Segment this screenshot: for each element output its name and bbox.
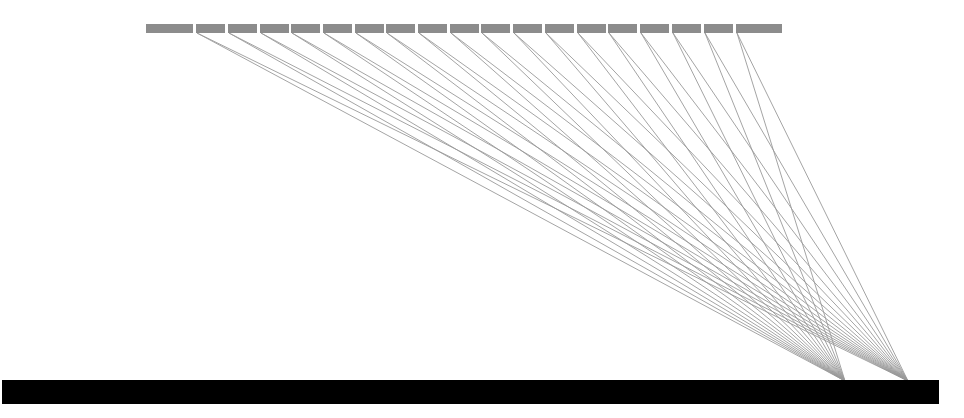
top-node [355, 24, 384, 33]
edge-line [641, 33, 845, 381]
top-node [418, 24, 447, 33]
top-node [450, 24, 479, 33]
edge-line [609, 33, 845, 381]
edge-line [451, 33, 845, 381]
top-node [260, 24, 289, 33]
top-node [736, 24, 782, 33]
top-node [545, 24, 574, 33]
edge-diagram [0, 0, 964, 418]
top-node [481, 24, 510, 33]
edge-line [292, 33, 845, 381]
top-node [291, 24, 320, 33]
top-node-row [146, 24, 782, 33]
base-bar [2, 380, 939, 404]
edge-line [673, 33, 845, 381]
top-node [146, 24, 193, 33]
top-node [228, 24, 257, 33]
top-node [704, 24, 733, 33]
top-node [386, 24, 415, 33]
edge-line [197, 33, 845, 381]
top-node [672, 24, 701, 33]
edge-line [324, 33, 845, 381]
top-node [640, 24, 669, 33]
edge-line [261, 33, 845, 381]
edge-line [514, 33, 845, 381]
top-node [577, 24, 606, 33]
edge-line [578, 33, 845, 381]
edge-line [546, 33, 845, 381]
top-node [196, 24, 225, 33]
edge-line [387, 33, 845, 381]
top-node [323, 24, 352, 33]
edge-line [705, 33, 845, 381]
edge-line [419, 33, 845, 381]
diagram-canvas [0, 0, 964, 418]
top-node [608, 24, 637, 33]
edge-line [641, 33, 908, 381]
top-node [513, 24, 542, 33]
edge-lines [197, 33, 908, 381]
